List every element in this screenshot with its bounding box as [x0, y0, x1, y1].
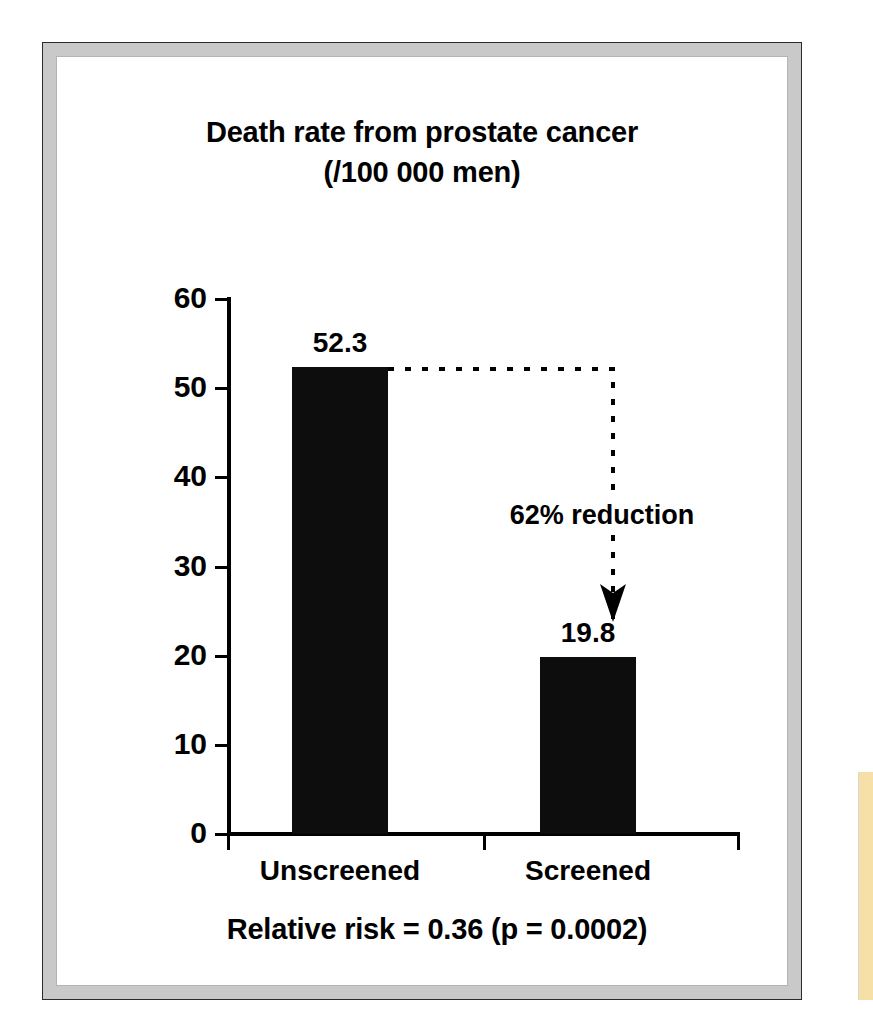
plot-area: 60 50 40 30 20 10 0 52.3 19.8 [57, 57, 817, 1015]
y-tick-label-60: 60 [145, 283, 207, 313]
page-edge-strip [858, 772, 873, 1000]
y-tick-label-20: 20 [145, 640, 207, 670]
bar-screened[interactable] [540, 657, 636, 834]
y-tick-60 [215, 298, 228, 301]
scan-page: Death rate from prostate cancer (/100 00… [0, 0, 873, 1031]
slide-canvas: Death rate from prostate cancer (/100 00… [56, 56, 788, 986]
y-tick-label-40: 40 [145, 461, 207, 491]
y-tick-label-10: 10 [145, 729, 207, 759]
bar-value-unscreened: 52.3 [240, 329, 440, 357]
y-tick-30 [215, 566, 228, 569]
y-tick-label-50: 50 [145, 372, 207, 402]
x-category-label-screened: Screened [458, 854, 718, 888]
reduction-annotation-label: 62% reduction [457, 497, 747, 533]
x-category-label-unscreened: Unscreened [210, 854, 470, 888]
chart-footnote: Relative risk = 0.36 (p = 0.0002) [57, 912, 817, 946]
y-tick-10 [215, 744, 228, 747]
y-tick-40 [215, 476, 228, 479]
bar-unscreened[interactable] [292, 367, 388, 834]
y-tick-label-0: 0 [145, 818, 207, 848]
x-tick-right-end [737, 836, 740, 850]
x-tick-left-end [227, 836, 230, 850]
x-tick-category-divider [483, 836, 486, 850]
y-tick-label-30: 30 [145, 551, 207, 581]
bar-value-screened: 19.8 [488, 619, 688, 647]
y-tick-50 [215, 387, 228, 390]
y-tick-20 [215, 655, 228, 658]
connector-dotted-path [388, 369, 613, 605]
slide-frame: Death rate from prostate cancer (/100 00… [42, 42, 802, 1000]
